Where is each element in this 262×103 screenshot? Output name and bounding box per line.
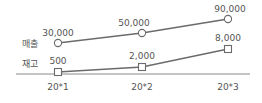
sales-marker-2: [138, 29, 145, 36]
sales-marker-1: [54, 39, 61, 46]
series-label-inventory: 재고: [22, 59, 38, 69]
inventory-value-label-2: 2,000: [129, 51, 155, 61]
inventory-marker-1: [55, 69, 62, 76]
sales-value-label-1: 30,000: [42, 28, 74, 38]
inventory-marker-3: [225, 46, 232, 53]
inventory-value-label-3: 8,000: [215, 33, 241, 43]
sales-marker-3: [224, 15, 231, 22]
x-tick-label-1: 20*1: [47, 82, 69, 92]
x-tick-label-2: 20*2: [131, 82, 153, 92]
sales-value-label-2: 50,000: [118, 18, 150, 28]
x-tick-label-3: 20*3: [217, 82, 239, 92]
sales-value-label-3: 90,000: [214, 4, 246, 14]
inventory-marker-2: [139, 64, 146, 71]
series-label-sales: 매출: [22, 39, 38, 49]
chart-canvas: 30,000 50,000 90,000 500 2,000 8,000 매출 …: [0, 0, 262, 103]
inventory-value-label-1: 500: [49, 56, 66, 66]
line-chart: 30,000 50,000 90,000 500 2,000 8,000 매출 …: [0, 0, 262, 103]
